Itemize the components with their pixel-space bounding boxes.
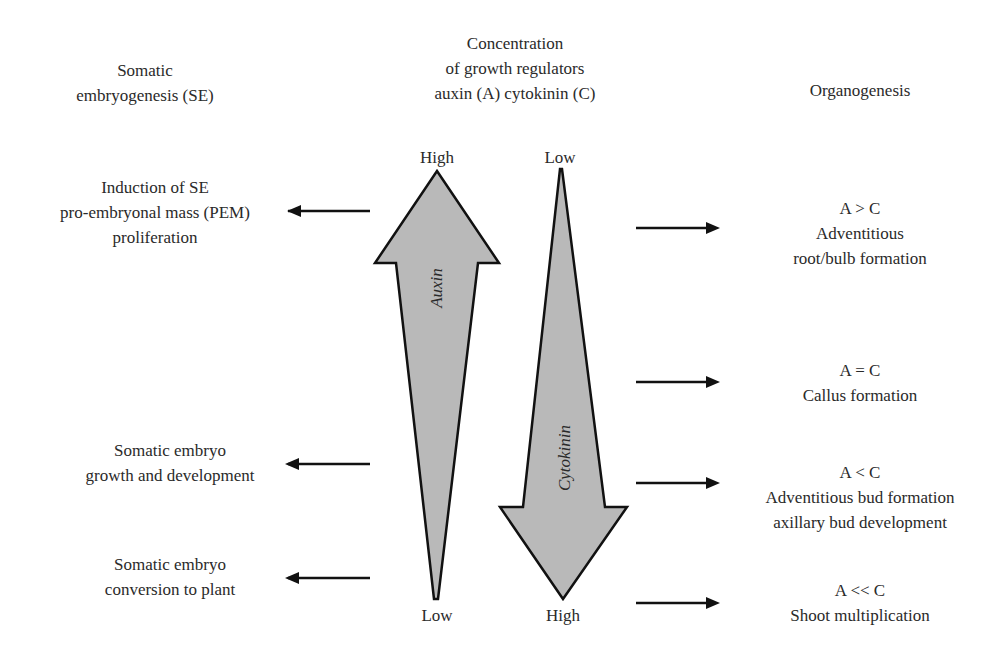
- item-line: root/bulb formation: [745, 246, 975, 271]
- item-line: axillary bud development: [735, 510, 985, 535]
- item-line: pro-embryonal mass (PEM): [30, 200, 280, 225]
- cytokinin-label: Cytokinin: [555, 418, 575, 498]
- item-line: conversion to plant: [60, 577, 280, 602]
- right-item-shoot: A << C Shoot multiplication: [745, 578, 975, 628]
- right-item-bud: A < C Adventitious bud formation axillar…: [735, 460, 985, 535]
- auxin-arrow-shape: [375, 171, 499, 599]
- item-line: Somatic embryo: [60, 438, 280, 463]
- left-item-induction: Induction of SE pro-embryonal mass (PEM)…: [30, 175, 280, 250]
- item-line: Callus formation: [745, 383, 975, 408]
- item-line: growth and development: [60, 463, 280, 488]
- right-item-root-bulb: A > C Adventitious root/bulb formation: [745, 196, 975, 271]
- auxin-label: Auxin: [427, 263, 447, 313]
- item-line: A > C: [745, 196, 975, 221]
- item-line: Somatic embryo: [60, 552, 280, 577]
- item-line: A << C: [745, 578, 975, 603]
- item-line: A < C: [735, 460, 985, 485]
- item-line: Shoot multiplication: [745, 603, 975, 628]
- item-line: Adventitious bud formation: [735, 485, 985, 510]
- left-item-growth: Somatic embryo growth and development: [60, 438, 280, 488]
- left-item-conversion: Somatic embryo conversion to plant: [60, 552, 280, 602]
- item-line: Induction of SE: [30, 175, 280, 200]
- item-line: proliferation: [30, 225, 280, 250]
- item-line: Adventitious: [745, 221, 975, 246]
- cytokinin-arrow-shape: [500, 169, 627, 599]
- right-item-callus: A = C Callus formation: [745, 358, 975, 408]
- item-line: A = C: [745, 358, 975, 383]
